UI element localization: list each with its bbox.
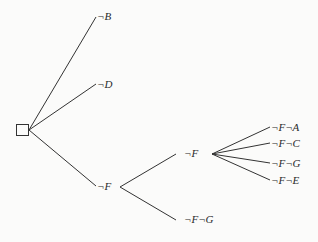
node-label-not-d: ¬D (97, 78, 112, 90)
root-node-box (17, 125, 29, 136)
node-label-not-b: ¬B (97, 10, 111, 22)
edge-root-b (29, 17, 96, 130)
edge-root-f (29, 130, 96, 186)
edge-f-fg-low (120, 187, 176, 220)
edge-f2-fe (212, 154, 270, 180)
node-label-not-f-not-c: ¬F¬C (271, 137, 300, 149)
edge-f-f2 (120, 154, 176, 187)
node-label-not-f-not-g-low: ¬F¬G (184, 213, 214, 225)
edge-root-d (29, 84, 96, 130)
node-label-not-f-2: ¬F (184, 147, 198, 159)
edge-f2-fg (212, 154, 270, 163)
node-label-not-f: ¬F (97, 180, 111, 192)
node-label-not-f-not-e: ¬F¬E (271, 174, 299, 186)
edge-f2-fa (212, 127, 270, 154)
node-label-not-f-not-a: ¬F¬A (271, 121, 299, 133)
edge-f2-fc (212, 143, 270, 154)
node-label-not-f-not-g: ¬F¬G (271, 157, 301, 169)
